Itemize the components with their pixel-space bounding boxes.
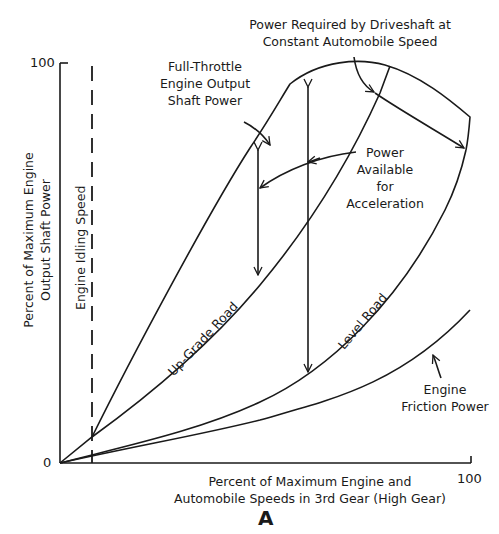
power-required-label-line2: Constant Automobile Speed (245, 33, 455, 50)
full-throttle-pointer (244, 122, 270, 145)
full-throttle-label-line3: Shaft Power (150, 92, 260, 109)
friction-pointer (433, 355, 441, 378)
y-tick-100: 100 (30, 55, 55, 70)
y-axis-label-line1: Percent of Maximum Engine (20, 110, 37, 370)
power-available-label-line1: Power (340, 144, 430, 161)
friction-power-label: Engine Friction Power (395, 381, 495, 415)
y-axis-label: Percent of Maximum Engine Output Shaft P… (20, 110, 54, 370)
panel-label: A (258, 506, 273, 530)
full-throttle-label-line1: Full-Throttle (150, 58, 260, 75)
full-throttle-label: Full-Throttle Engine Output Shaft Power (150, 58, 260, 109)
y-axis-label-line2: Output Shaft Power (37, 110, 54, 370)
power-required-label-line1: Power Required by Driveshaft at (245, 16, 455, 33)
power-available-label-line2: Available (340, 161, 430, 178)
x-axis-label-line2: Automobile Speeds in 3rd Gear (High Gear… (150, 490, 470, 507)
power-required-label: Power Required by Driveshaft at Constant… (245, 16, 455, 50)
y-tick-0: 0 (43, 455, 51, 470)
x-axis-label: Percent of Maximum Engine and Automobile… (150, 473, 470, 507)
power-available-label-line3: for (340, 178, 430, 195)
x-axis-label-line1: Percent of Maximum Engine and (150, 473, 470, 490)
full-throttle-label-line2: Engine Output (150, 75, 260, 92)
power-available-label-line4: Acceleration (340, 195, 430, 212)
power-available-label: Power Available for Acceleration (340, 144, 430, 212)
friction-power-label-line2: Friction Power (395, 398, 495, 415)
idling-label: Engine Idling Speed (72, 186, 89, 310)
friction-power-label-line1: Engine (395, 381, 495, 398)
